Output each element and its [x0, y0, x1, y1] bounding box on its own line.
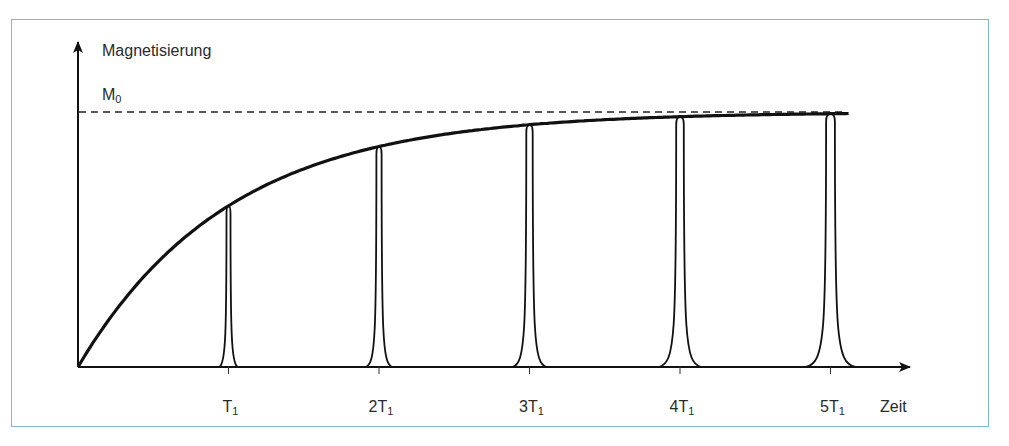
- tick-label-4: 4T1: [670, 398, 695, 417]
- x-ticks: [229, 367, 831, 374]
- asymptote-label: M0: [102, 86, 121, 105]
- tick-label-2: 2T1: [369, 398, 394, 417]
- saturation-curve: [78, 114, 849, 368]
- pulse-peaks: [220, 114, 856, 367]
- tick-label-3: 3T1: [519, 398, 544, 417]
- peak-2: [366, 147, 392, 367]
- magnetization-plot: [0, 0, 1009, 446]
- asymptote-label-sub: 0: [115, 93, 121, 105]
- peak-5: [806, 114, 856, 367]
- asymptote-label-text: M: [102, 86, 115, 103]
- axes: [78, 42, 910, 367]
- peak-3: [513, 125, 547, 367]
- y-axis-label: Magnetisierung: [102, 42, 211, 60]
- tick-label-1: T1: [223, 398, 239, 417]
- x-axis-label: Zeit: [880, 398, 907, 416]
- peak-4: [659, 117, 701, 367]
- tick-label-5: 5T1: [820, 398, 845, 417]
- peak-1: [220, 206, 238, 367]
